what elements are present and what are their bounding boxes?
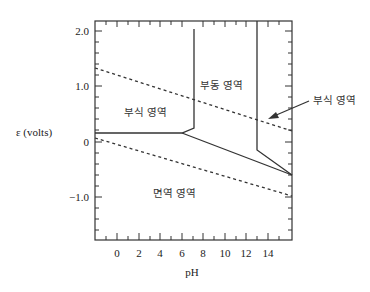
region-immunity: 면역 영역	[153, 187, 196, 199]
pourbaix-diagram: 0 2 4 6 8 10 12 14 2.0 1.0 0 −1.0 pH ε (…	[0, 0, 370, 292]
immunity-boundary	[182, 133, 292, 175]
passivation-right-boundary	[257, 21, 292, 175]
svg-text:0: 0	[84, 136, 90, 148]
svg-text:2: 2	[136, 247, 142, 259]
svg-text:0: 0	[114, 247, 120, 259]
x-tick-labels: 0 2 4 6 8 10 12 14	[114, 247, 274, 259]
svg-text:−1.0: −1.0	[69, 191, 89, 203]
svg-text:14: 14	[263, 247, 275, 259]
svg-text:1.0: 1.0	[75, 80, 89, 92]
region-passivation: 부동 영역	[200, 79, 243, 91]
svg-text:6: 6	[179, 247, 185, 259]
svg-text:2.0: 2.0	[75, 25, 89, 37]
y-tick-labels: 2.0 1.0 0 −1.0	[69, 25, 89, 203]
svg-text:4: 4	[157, 247, 163, 259]
y-axis-label: ε (volts)	[16, 126, 52, 139]
region-corrosion-right: 부식 영역	[313, 94, 356, 106]
svg-text:12: 12	[241, 247, 252, 259]
arrow-head-icon	[268, 112, 279, 119]
region-corrosion-left: 부식 영역	[124, 106, 167, 118]
x-ticks	[106, 21, 279, 240]
x-axis-label: pH	[185, 266, 199, 278]
svg-text:8: 8	[200, 247, 206, 259]
svg-text:10: 10	[220, 247, 232, 259]
